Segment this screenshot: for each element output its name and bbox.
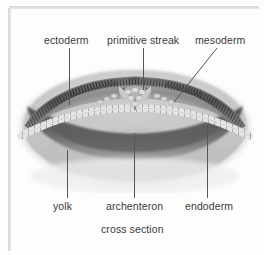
label-archenteron: archenteron (106, 201, 163, 212)
leader-line-primitive-streak (143, 48, 144, 90)
label-endoderm: endoderm (185, 201, 233, 212)
label-mesoderm: mesoderm (195, 35, 245, 46)
leader-line-endoderm (207, 126, 208, 198)
leader-line-archenteron (134, 133, 135, 198)
leader-line-mesoderm (172, 48, 218, 102)
embryo-cross-section-illustration (11, 58, 259, 193)
label-yolk: yolk (53, 201, 72, 212)
label-primitive-streak: primitive streak (107, 35, 179, 46)
leader-line-yolk (67, 150, 68, 198)
figure-caption: cross section (101, 224, 164, 235)
figure-container: ectoderm primitive streak mesoderm yolk … (0, 0, 264, 255)
label-ectoderm: ectoderm (44, 35, 89, 46)
leader-line-ectoderm (69, 48, 70, 105)
